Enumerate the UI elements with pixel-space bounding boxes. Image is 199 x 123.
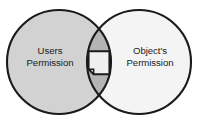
venn-diagram: Users Permission Object's Permission xyxy=(0,0,199,123)
left-circle-label-line2: Permission xyxy=(9,57,91,69)
left-circle-label: Users Permission xyxy=(9,45,91,68)
document-page-icon-body xyxy=(89,51,110,74)
right-circle-label-line2: Permission xyxy=(108,57,192,69)
right-circle-label-line1: Object's xyxy=(108,45,192,57)
document-page-icon xyxy=(89,51,110,74)
right-circle-label: Object's Permission xyxy=(108,45,192,68)
left-circle-label-line1: Users xyxy=(9,45,91,57)
